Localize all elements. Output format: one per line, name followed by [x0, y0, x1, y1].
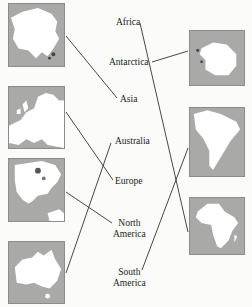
line-north-america — [66, 192, 112, 223]
label-south-line1: South — [113, 267, 146, 278]
australia-map-icon — [8, 241, 65, 304]
label-north-line2: America — [113, 229, 146, 240]
line-europe — [66, 112, 113, 180]
label-europe: Europe — [115, 176, 142, 187]
europe-map-icon — [8, 86, 65, 149]
line-antarctica — [152, 51, 188, 62]
label-antarctica: Antarctica — [109, 57, 149, 68]
label-australia: Australia — [115, 136, 150, 147]
label-south-line2: America — [113, 278, 146, 289]
label-north-america: North America — [113, 218, 146, 240]
label-south-america: South America — [113, 267, 146, 289]
south-america-map-icon — [189, 107, 245, 177]
africa-map-icon — [189, 197, 245, 255]
label-north-line1: North — [113, 218, 146, 229]
line-australia — [66, 143, 111, 273]
antarctica-map-icon — [189, 30, 245, 86]
north-america-map-icon — [8, 158, 65, 222]
asia-map-icon — [8, 3, 65, 67]
label-asia: Asia — [120, 94, 137, 105]
line-africa — [140, 23, 188, 232]
line-south-america — [142, 148, 188, 270]
label-africa: Africa — [116, 17, 140, 28]
